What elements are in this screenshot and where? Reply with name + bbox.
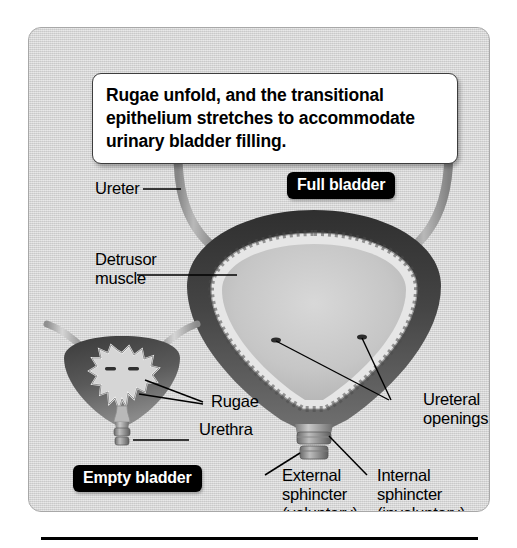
caption-box: Rugae unfold, and the transitional epith… xyxy=(92,73,458,164)
label-external-line2: sphincter xyxy=(282,485,358,504)
figure-root: Rugae unfold, and the transitional epith… xyxy=(0,0,517,548)
empty-internal-sphincter xyxy=(114,428,130,436)
label-internal-line1: Internal xyxy=(377,466,465,485)
internal-sphincter-ring xyxy=(297,432,331,444)
badge-full-bladder: Full bladder xyxy=(287,172,395,199)
label-internal-line2: sphincter xyxy=(377,485,465,504)
label-external-sphincter: External sphincter (voluntary) xyxy=(282,466,358,512)
diagram-panel: Rugae unfold, and the transitional epith… xyxy=(28,27,490,512)
label-ureter: Ureter xyxy=(95,179,140,198)
label-internal-line3: (involuntary) xyxy=(377,504,465,512)
label-external-line1: External xyxy=(282,466,358,485)
ureteral-opening-left xyxy=(271,337,281,342)
label-rugae: Rugae xyxy=(211,392,259,411)
empty-external-sphincter xyxy=(115,437,129,445)
label-external-line3: (voluntary) xyxy=(282,504,358,512)
label-ureteral-line1: Ureteral xyxy=(423,390,488,409)
label-ureteral-line2: openings xyxy=(423,409,488,428)
label-urethra: Urethra xyxy=(199,420,253,439)
badge-full-bladder-label: Full bladder xyxy=(297,176,385,193)
label-ureteral-openings: Ureteral openings xyxy=(423,390,488,428)
empty-ureteral-opening-left xyxy=(105,367,116,370)
label-ureter-text: Ureter xyxy=(95,179,140,197)
label-detrusor-line1: Detrusor xyxy=(95,250,157,269)
label-rugae-text: Rugae xyxy=(211,392,259,410)
caption-text: Rugae unfold, and the transitional epith… xyxy=(106,85,415,151)
footer-rule xyxy=(41,537,478,540)
badge-empty-bladder-label: Empty bladder xyxy=(83,469,192,486)
label-internal-sphincter: Internal sphincter (involuntary) xyxy=(377,466,465,512)
empty-ureteral-opening-right xyxy=(128,367,139,370)
badge-empty-bladder: Empty bladder xyxy=(73,465,202,492)
label-detrusor-muscle: Detrusor muscle xyxy=(95,250,157,288)
external-sphincter-ring xyxy=(300,446,328,459)
label-detrusor-line2: muscle xyxy=(95,269,157,288)
label-urethra-text: Urethra xyxy=(199,420,253,438)
empty-bladder-graphic xyxy=(47,324,203,445)
